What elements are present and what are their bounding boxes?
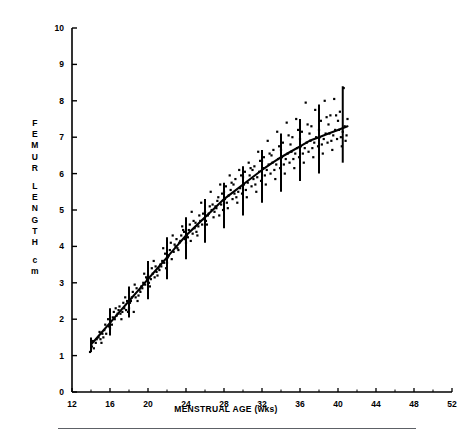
x-tick-label: 24 [175, 399, 197, 409]
y-axis-label-letter: R [22, 163, 48, 174]
x-tick-label: 44 [365, 399, 387, 409]
y-axis-label-letter: E [22, 192, 48, 203]
x-axis-ticks [72, 388, 452, 392]
y-tick-label: 6 [48, 169, 64, 179]
x-tick-label: 48 [403, 399, 425, 409]
x-tick-label: 36 [289, 399, 311, 409]
x-tick-label: 52 [441, 399, 463, 409]
y-axis-label-letter: U [22, 152, 48, 163]
y-tick-label: 9 [48, 59, 64, 69]
y-axis-label-letter: L [22, 181, 48, 192]
scatter-points [89, 87, 349, 353]
x-tick-label: 28 [213, 399, 235, 409]
y-axis-label-letter: F [22, 118, 48, 129]
y-axis-label-letter: m [22, 266, 48, 277]
axis-lines [72, 28, 452, 392]
y-axis-label-letter: E [22, 129, 48, 140]
y-tick-label: 10 [48, 23, 64, 33]
y-tick-label: 0 [48, 387, 64, 397]
y-axis-label-letter: c [22, 255, 48, 266]
y-axis-label-letter: G [22, 215, 48, 226]
y-axis-label-gap [22, 248, 48, 255]
y-axis-label: FEMURLENGTHcm [22, 118, 48, 278]
figure-panel: FEMURLENGTHcm MENSTRUAL AGE (wks) 012345… [0, 0, 474, 440]
y-axis-label-letter: M [22, 140, 48, 151]
y-tick-label: 7 [48, 132, 64, 142]
chart-canvas [0, 0, 474, 440]
x-tick-label: 16 [99, 399, 121, 409]
y-axis-label-letter: T [22, 226, 48, 237]
y-tick-label: 8 [48, 96, 64, 106]
y-axis-label-letter: H [22, 237, 48, 248]
y-tick-label: 3 [48, 278, 64, 288]
footer-divider [58, 428, 416, 429]
y-tick-label: 1 [48, 351, 64, 361]
x-tick-label: 40 [327, 399, 349, 409]
y-tick-label: 5 [48, 205, 64, 215]
x-tick-label: 20 [137, 399, 159, 409]
y-tick-label: 2 [48, 314, 64, 324]
x-tick-label: 12 [61, 399, 83, 409]
x-tick-label: 32 [251, 399, 273, 409]
y-axis-label-letter: N [22, 203, 48, 214]
y-axis-label-gap [22, 174, 48, 181]
y-tick-label: 4 [48, 241, 64, 251]
